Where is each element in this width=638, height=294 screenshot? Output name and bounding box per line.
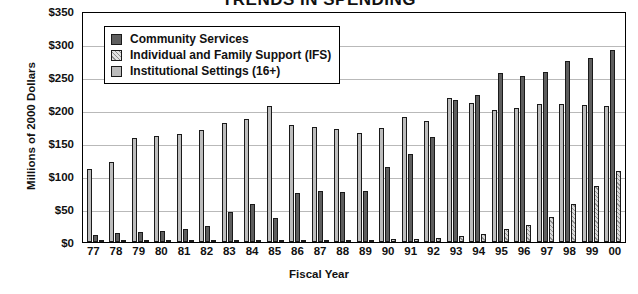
bar bbox=[616, 171, 621, 242]
bar bbox=[256, 240, 261, 242]
bar bbox=[295, 193, 300, 242]
bar bbox=[514, 108, 519, 242]
y-axis-tick: $50 bbox=[14, 204, 74, 216]
x-axis-tick: 87 bbox=[309, 245, 332, 263]
legend-label-community-services: Community Services bbox=[130, 32, 249, 46]
y-axis-tick: $250 bbox=[14, 72, 74, 84]
bar bbox=[109, 162, 114, 242]
chart-title: TRENDS IN SPENDING bbox=[0, 0, 638, 10]
bar bbox=[459, 236, 464, 242]
bar bbox=[228, 212, 233, 242]
bar bbox=[520, 76, 525, 242]
bar bbox=[301, 240, 306, 242]
x-axis-tick: 81 bbox=[173, 245, 196, 263]
bar-group bbox=[557, 13, 580, 242]
x-axis-tick: 80 bbox=[150, 245, 173, 263]
bar bbox=[469, 103, 474, 242]
x-axis-tick: 94 bbox=[467, 245, 490, 263]
bar bbox=[138, 232, 143, 242]
bar bbox=[211, 240, 216, 242]
x-axis-tick: 00 bbox=[603, 245, 626, 263]
bar-group bbox=[467, 13, 490, 242]
bar bbox=[318, 191, 323, 242]
bar-group bbox=[579, 13, 602, 242]
bar bbox=[324, 240, 329, 242]
x-axis-tick: 95 bbox=[490, 245, 513, 263]
bar-group bbox=[489, 13, 512, 242]
bar-group bbox=[399, 13, 422, 242]
y-axis-label: Millions of 2000 Dollars bbox=[25, 11, 37, 241]
y-axis-tick: $0 bbox=[14, 237, 74, 249]
x-axis-tick: 93 bbox=[445, 245, 468, 263]
x-axis-tick: 86 bbox=[286, 245, 309, 263]
bar bbox=[571, 204, 576, 242]
x-axis-tick: 92 bbox=[422, 245, 445, 263]
x-axis-tick: 77 bbox=[82, 245, 105, 263]
bar bbox=[93, 235, 98, 242]
legend-item-individual-family-support: Individual and Family Support (IFS) bbox=[111, 47, 331, 63]
bar bbox=[289, 125, 294, 242]
bar bbox=[267, 106, 272, 242]
bar bbox=[537, 104, 542, 242]
x-axis-tick: 98 bbox=[558, 245, 581, 263]
legend-swatch-institutional-settings bbox=[111, 66, 122, 77]
bar bbox=[279, 240, 284, 242]
bar bbox=[430, 137, 435, 242]
bar bbox=[565, 61, 570, 243]
x-axis-tick-labels: 7778798081828384858687888990919293949596… bbox=[82, 245, 626, 263]
legend-item-institutional-settings: Institutional Settings (16+) bbox=[111, 63, 331, 79]
bar bbox=[222, 123, 227, 242]
bar bbox=[334, 129, 339, 242]
bar bbox=[424, 121, 429, 242]
bar bbox=[582, 105, 587, 242]
bar-group bbox=[602, 13, 625, 242]
bar bbox=[610, 50, 615, 242]
bar bbox=[132, 138, 137, 242]
bar-group bbox=[444, 13, 467, 242]
bar bbox=[183, 229, 188, 242]
y-axis-tick: $150 bbox=[14, 138, 74, 150]
bar bbox=[453, 100, 458, 242]
bar bbox=[408, 154, 413, 242]
bar bbox=[402, 117, 407, 242]
x-axis-tick: 88 bbox=[331, 245, 354, 263]
bar bbox=[154, 136, 159, 242]
y-axis-tick: $300 bbox=[14, 39, 74, 51]
bar bbox=[559, 104, 564, 242]
legend-swatch-individual-family-support bbox=[111, 50, 122, 61]
bar bbox=[312, 127, 317, 243]
bar bbox=[340, 192, 345, 242]
bar bbox=[385, 167, 390, 242]
bar bbox=[604, 106, 609, 242]
x-axis-tick: 79 bbox=[127, 245, 150, 263]
bar bbox=[273, 218, 278, 242]
bar bbox=[475, 95, 480, 242]
legend-swatch-community-services bbox=[111, 34, 122, 45]
bar bbox=[205, 226, 210, 242]
legend-label-individual-family-support: Individual and Family Support (IFS) bbox=[130, 48, 331, 62]
bar bbox=[115, 233, 120, 242]
bar-group bbox=[534, 13, 557, 242]
bar bbox=[357, 133, 362, 242]
bar bbox=[414, 239, 419, 242]
bar-group bbox=[354, 13, 377, 242]
bar bbox=[99, 240, 104, 242]
x-axis-tick: 89 bbox=[354, 245, 377, 263]
bar bbox=[436, 238, 441, 242]
bar bbox=[447, 98, 452, 242]
x-axis-tick: 99 bbox=[581, 245, 604, 263]
legend-label-institutional-settings: Institutional Settings (16+) bbox=[130, 64, 280, 78]
bar bbox=[391, 239, 396, 242]
bar bbox=[144, 240, 149, 242]
bar bbox=[594, 186, 599, 242]
legend-item-community-services: Community Services bbox=[111, 31, 331, 47]
bar bbox=[363, 191, 368, 242]
bar bbox=[189, 240, 194, 242]
x-axis-tick: 96 bbox=[513, 245, 536, 263]
y-axis-tick: $100 bbox=[14, 171, 74, 183]
bar bbox=[549, 217, 554, 242]
x-axis-label: Fiscal Year bbox=[0, 268, 638, 280]
bar-group bbox=[377, 13, 400, 242]
x-axis-tick: 97 bbox=[535, 245, 558, 263]
x-axis-tick: 90 bbox=[377, 245, 400, 263]
